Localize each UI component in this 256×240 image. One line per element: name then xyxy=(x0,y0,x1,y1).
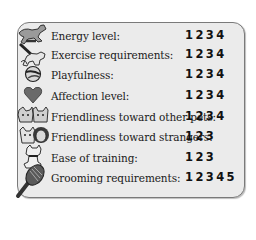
trait-label: Energy level: xyxy=(51,30,120,42)
trait-rating: 1234 xyxy=(185,109,227,123)
trait-row-grooming: Grooming requirements: 12345 xyxy=(0,169,256,187)
trait-row-playfulness: Playfulness: 1234 xyxy=(0,66,256,84)
trait-rating: 123 xyxy=(185,129,216,143)
dog-and-cat-icon xyxy=(17,106,49,126)
ball-icon xyxy=(24,65,42,83)
trait-label: Exercise requirements: xyxy=(51,49,173,61)
brush-icon xyxy=(14,163,48,199)
trait-row-other-pets: Friendliness toward other pets: 1234 xyxy=(0,108,256,126)
trait-row-exercise: Exercise requirements: 1234 xyxy=(0,46,256,64)
trait-rating: 1234 xyxy=(185,28,227,42)
trait-row-affection: Affection level: 1234 xyxy=(0,87,256,105)
trait-rating: 1234 xyxy=(185,47,227,61)
trait-rating: 123 xyxy=(185,150,216,164)
trait-rating: 1234 xyxy=(185,67,227,81)
trait-label: Ease of training: xyxy=(51,152,138,164)
trait-label: Grooming requirements: xyxy=(51,172,180,184)
trait-rating: 12345 xyxy=(185,170,237,184)
heart-icon xyxy=(23,86,43,104)
trait-rating: 1234 xyxy=(185,88,227,102)
trait-label: Playfulness: xyxy=(51,69,114,81)
trait-label: Affection level: xyxy=(51,90,129,102)
